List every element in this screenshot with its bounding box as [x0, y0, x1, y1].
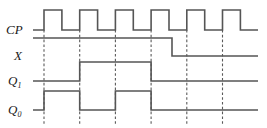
waveforms-group [33, 10, 258, 110]
signal-label-subscript-q1: 1 [17, 81, 21, 90]
signal-label-cp: CP [6, 22, 23, 37]
signal-label-q1: Q1 [8, 73, 21, 90]
waveform-cp [33, 10, 258, 30]
waveform-q1 [33, 62, 258, 81]
signal-label-x: X [13, 48, 23, 63]
waveform-x [33, 38, 258, 56]
signal-label-subscript-q0: 0 [17, 110, 21, 119]
waveform-q0 [33, 91, 258, 110]
signal-label-q0: Q0 [8, 102, 21, 119]
signal-labels-group: CPXQ1Q0 [6, 22, 23, 119]
timing-diagram: CPXQ1Q0 [0, 0, 267, 128]
timing-diagram-canvas: CPXQ1Q0 [0, 0, 267, 128]
